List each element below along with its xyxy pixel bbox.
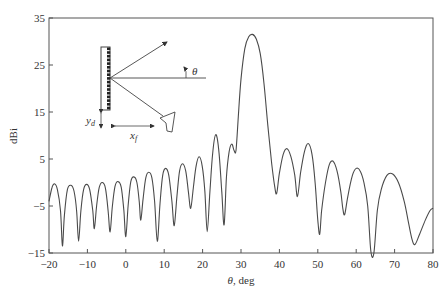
array-element	[107, 88, 110, 91]
x-tick-label: 50	[312, 258, 324, 270]
array-element	[107, 73, 110, 76]
y-tick-label: 25	[34, 59, 46, 71]
array-element	[107, 103, 110, 106]
y-tick-label: −5	[33, 200, 45, 212]
radiation-pattern-chart: −15−55152535 −20−1001020304050607080 dBi…	[0, 0, 447, 296]
array-element	[107, 66, 110, 69]
x-tick-label: 70	[389, 258, 401, 270]
x-axis: −20−1001020304050607080	[40, 249, 439, 270]
array-elements	[107, 48, 110, 110]
x-tick-label: 20	[197, 258, 209, 270]
y-tick-label: 35	[34, 12, 46, 24]
x-tick-label: −20	[40, 258, 58, 270]
array-element	[107, 96, 110, 99]
y-axis-label: dBi	[7, 128, 19, 144]
x-tick-label: 60	[351, 258, 363, 270]
theta-label: θ	[192, 65, 198, 77]
array-element	[107, 70, 110, 73]
x-tick-label: 80	[428, 258, 440, 270]
array-element	[107, 85, 110, 88]
y-tick-label: 5	[40, 153, 46, 165]
array-element	[107, 48, 110, 51]
reflected-beam-arrow	[110, 42, 167, 78]
array-element	[107, 92, 110, 95]
array-element	[107, 77, 110, 80]
plot-frame	[49, 18, 433, 253]
array-element	[107, 107, 110, 110]
array-element	[107, 62, 110, 65]
xf-label: xf	[129, 129, 139, 143]
x-tick-label: 10	[159, 258, 171, 270]
array-element	[107, 99, 110, 102]
x-tick-label: 0	[123, 258, 129, 270]
inset-diagram: θ yd xf	[85, 42, 206, 143]
x-tick-label: −10	[79, 258, 97, 270]
yd-label: yd	[85, 114, 96, 128]
array-element	[107, 59, 110, 62]
array-element	[107, 81, 110, 84]
pattern-curve	[49, 34, 433, 257]
x-tick-label: 30	[236, 258, 248, 270]
theta-angle-arrow	[184, 67, 186, 78]
incident-beam-line	[110, 78, 163, 116]
array-element	[107, 55, 110, 58]
x-axis-label: θ, deg	[228, 274, 255, 286]
y-tick-label: 15	[34, 106, 46, 118]
array-element	[107, 51, 110, 54]
x-tick-label: 40	[274, 258, 286, 270]
